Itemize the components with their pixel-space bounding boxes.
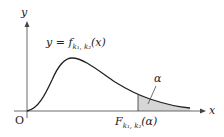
curve-label-suffix: (x) [91,36,106,49]
x-axis-label: x [209,105,215,116]
curve-label-subscript: k₁, k₂ [73,43,92,51]
diagram-canvas [0,0,224,137]
y-axis-label: y [21,7,27,18]
critical-value-subscript: k₁, k₂ [123,122,142,130]
curve-label: y = fk₁, k₂(x) [46,37,106,51]
curve-label-prefix: y = f [46,36,73,49]
alpha-label: α [154,73,161,84]
x-axis-arrow-icon [200,109,206,114]
origin-label: O [15,115,24,126]
density-curve [27,58,190,111]
critical-value-suffix: (α) [141,115,157,128]
y-axis-arrow-icon [25,21,30,27]
f-distribution-diagram: y x O y = fk₁, k₂(x) Fk₁, k₂(α) α [0,0,224,137]
critical-value-prefix: F [115,115,123,128]
critical-value-label: Fk₁, k₂(α) [115,116,157,130]
